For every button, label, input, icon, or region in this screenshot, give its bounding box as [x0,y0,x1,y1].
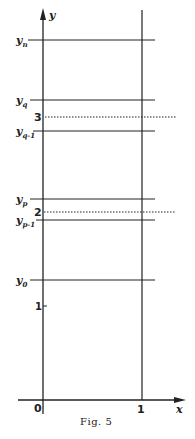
label-y-0: y0 [15,274,27,289]
x-axis-label: x [175,403,183,416]
figure-caption: Fig. 5 [80,416,112,427]
label-y-p-minus-1: yp-1 [15,214,35,229]
origin-label: 0 [34,402,42,415]
figure-5-diagram: y yn yq 3 yq-1 yp 2 yp-1 y0 1 0 1 x Fig.… [0,0,195,439]
label-2: 2 [34,206,42,219]
x-tick-label-1: 1 [137,403,145,416]
label-3: 3 [34,111,42,124]
y-axis-arrow-icon [40,8,46,20]
label-y-p: yp [15,193,27,208]
label-y-q: yq [15,94,27,109]
label-y-q-minus-1: yq-1 [15,125,35,140]
y-tick-label-1: 1 [35,301,42,312]
label-y-n: yn [15,34,28,49]
y-axis-label: y [48,9,57,22]
